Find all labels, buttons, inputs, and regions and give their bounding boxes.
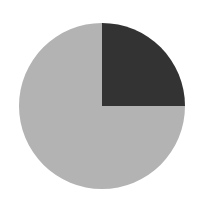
pie-slice-dark bbox=[102, 23, 185, 106]
pie-slices bbox=[19, 23, 185, 189]
pie-chart bbox=[0, 0, 212, 207]
